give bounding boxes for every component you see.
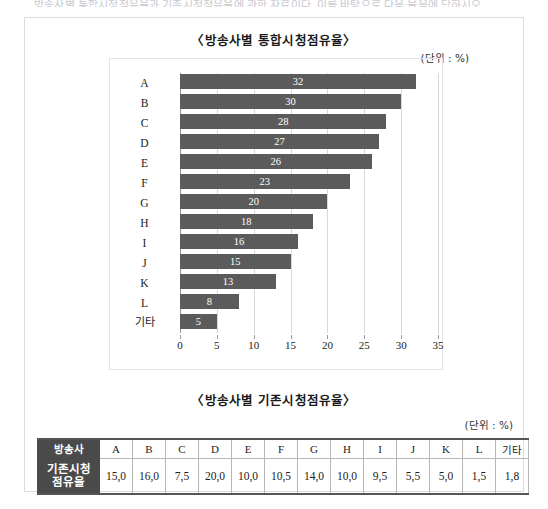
chart-x-axis: 05101520253035: [180, 335, 438, 355]
bar-row: G20: [180, 193, 438, 213]
bar-row: E26: [180, 153, 438, 173]
bar-row: L8: [180, 293, 438, 313]
table-cell: 20,0: [199, 459, 232, 495]
x-tick-label-5: 5: [214, 339, 220, 351]
table-cell: 14,0: [298, 459, 331, 495]
bar-category-label: C: [114, 113, 180, 133]
x-tick-label-0: 0: [177, 339, 183, 351]
table-corner-header: 방송사: [38, 439, 100, 459]
table-header-row: 방송사ABCDEFGHIJKL기타: [38, 439, 529, 459]
table-row-header: 기존시청점유율: [38, 459, 100, 495]
bar-value-label: 30: [285, 94, 296, 109]
bar-value-label: 15: [230, 254, 241, 269]
x-tick-label-15: 15: [285, 339, 296, 351]
table-cell: 15,0: [100, 459, 133, 495]
x-tick-label-10: 10: [248, 339, 259, 351]
chart-bars: A32B30C28D27E26F23G20H18I16J15K13L8기타5: [180, 73, 438, 333]
bar-row: D27: [180, 133, 438, 153]
table-cell: 1,8: [496, 459, 529, 495]
bar-category-label: A: [114, 73, 180, 93]
table-col-header: K: [430, 439, 463, 459]
table-cell: 7,5: [166, 459, 199, 495]
bar-value-label: 26: [271, 154, 282, 169]
table-col-header: A: [100, 439, 133, 459]
table-col-header: J: [397, 439, 430, 459]
table-cell: 10,0: [232, 459, 265, 495]
table-col-header: F: [265, 439, 298, 459]
bar-value-label: 20: [248, 194, 259, 209]
bar-value-label: 27: [274, 134, 285, 149]
bar-category-label: 기타: [114, 313, 180, 333]
table-col-header: D: [199, 439, 232, 459]
bar-category-label: D: [114, 133, 180, 153]
table-title: 〈방송사별 기존시청점유율〉: [25, 390, 523, 409]
table-unit-note: (단위 : %): [465, 417, 513, 432]
table-col-header: I: [364, 439, 397, 459]
bar-row: K13: [180, 273, 438, 293]
table-cell: 10,0: [331, 459, 364, 495]
bar-row: C28: [180, 113, 438, 133]
bar-category-label: B: [114, 93, 180, 113]
bar-category-label: K: [114, 273, 180, 293]
document-page-box: 〈방송사별 통합시청점유율〉 (단위 : %) A32B30C28D27E26F…: [24, 17, 524, 492]
bar-value-label: 28: [278, 114, 289, 129]
table-col-header: E: [232, 439, 265, 459]
table-row: 기존시청점유율15,016,07,520,010,010,514,010,09,…: [38, 459, 529, 495]
share-table: 방송사ABCDEFGHIJKL기타기존시청점유율15,016,07,520,01…: [37, 438, 529, 495]
bar-row: H18: [180, 213, 438, 233]
table-col-header: G: [298, 439, 331, 459]
x-tick-label-20: 20: [322, 339, 333, 351]
gridline-35: [438, 73, 439, 333]
x-tick-label-30: 30: [396, 339, 407, 351]
bar-category-label: I: [114, 233, 180, 253]
table-cell: 5,5: [397, 459, 430, 495]
bar-value-label: 32: [293, 74, 304, 89]
bar-category-label: L: [114, 293, 180, 313]
x-tick-label-25: 25: [359, 339, 370, 351]
table-cell: 1,5: [463, 459, 496, 495]
x-tick-label-35: 35: [433, 339, 444, 351]
table-col-header: L: [463, 439, 496, 459]
bar-category-label: F: [114, 173, 180, 193]
bar-value-label: 13: [223, 274, 234, 289]
bar-row: 기타5: [180, 313, 438, 333]
table-cell: 5,0: [430, 459, 463, 495]
bar-row: A32: [180, 73, 438, 93]
table-cell: 10,5: [265, 459, 298, 495]
bar-row: F23: [180, 173, 438, 193]
bar-value-label: 5: [196, 314, 201, 329]
chart-plot-frame: A32B30C28D27E26F23G20H18I16J15K13L8기타5 0…: [109, 58, 443, 370]
bar-category-label: E: [114, 153, 180, 173]
table-col-header: C: [166, 439, 199, 459]
chart-title: 〈방송사별 통합시청점유율〉: [25, 30, 523, 49]
bar-category-label: H: [114, 213, 180, 233]
bar-category-label: J: [114, 253, 180, 273]
table-col-header: 기타: [496, 439, 529, 459]
table-col-header: H: [331, 439, 364, 459]
bar-value-label: 8: [207, 294, 212, 309]
bar-row: J15: [180, 253, 438, 273]
share-table-body: 방송사ABCDEFGHIJKL기타기존시청점유율15,016,07,520,01…: [38, 439, 529, 494]
bar-value-label: 23: [260, 174, 271, 189]
bar-category-label: G: [114, 193, 180, 213]
clipped-intro-text: 방송사별 통합시청점유율과 기존시청점유율에 관한 자료이다. 이를 바탕으로 …: [34, 0, 514, 7]
table-col-header: B: [133, 439, 166, 459]
chart-plot-area: A32B30C28D27E26F23G20H18I16J15K13L8기타5 0…: [180, 73, 438, 333]
table-cell: 9,5: [364, 459, 397, 495]
bar-value-label: 16: [234, 234, 245, 249]
bar-value-label: 18: [241, 214, 252, 229]
table-cell: 16,0: [133, 459, 166, 495]
bar-row: B30: [180, 93, 438, 113]
bar-row: I16: [180, 233, 438, 253]
